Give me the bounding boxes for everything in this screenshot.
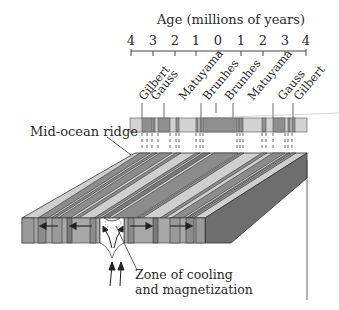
tick-label: 3	[149, 33, 157, 48]
axis-tick-labels: 4 3 2 1 0 1 2 3 4	[127, 33, 310, 48]
arrow-up-icon	[118, 262, 124, 286]
faint-guide-line	[230, 113, 339, 117]
rift-gap	[100, 218, 124, 258]
arrow-up-icon	[109, 262, 115, 286]
tick-label: 4	[127, 33, 135, 48]
tick-label: 4	[302, 33, 310, 48]
zone-label-line1: Zone of cooling	[135, 267, 233, 282]
block-front-right	[124, 218, 205, 243]
projection-dashed-lines	[142, 133, 292, 150]
magnetic-polarity-bar	[130, 118, 307, 132]
tick-label: 2	[259, 33, 267, 48]
tick-label: 3	[281, 33, 289, 48]
seafloor-spreading-diagram: Age (millions of years) 4 3 2 1 0 1 2 3 …	[0, 0, 339, 310]
block-front-left	[22, 218, 100, 243]
epoch-labels: Gilbert Gauss Matuyama Brunhes Brunhes M…	[136, 46, 328, 102]
ridge-label: Mid-ocean ridge	[30, 124, 138, 139]
tick-label: 0	[214, 33, 222, 48]
axis-title: Age (millions of years)	[156, 12, 305, 27]
zone-label-line2: and magnetization	[135, 282, 253, 297]
tick-label: 2	[171, 33, 179, 48]
tick-label: 1	[192, 33, 200, 48]
tick-label: 1	[237, 33, 245, 48]
